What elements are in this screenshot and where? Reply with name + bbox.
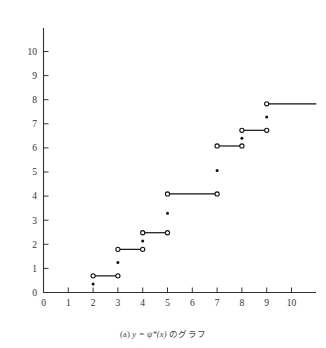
open-endpoint-marker [116,247,120,251]
x-tick-label-9: 9 [264,298,269,308]
jump-midpoint-dot [116,261,119,264]
y-tick-label-7: 7 [32,119,37,129]
x-tick-label-10: 10 [287,298,297,308]
y-tick-label-9: 9 [32,71,37,81]
x-tick-label-4: 4 [140,298,145,308]
chart-background [0,0,326,348]
open-endpoint-marker [215,192,219,196]
x-tick-label-1: 1 [66,298,71,308]
open-endpoint-marker [265,128,269,132]
jump-midpoint-dot [166,212,169,215]
y-tick-label-6: 6 [32,143,37,153]
y-tick-label-1: 1 [32,264,37,274]
y-tick-label-10: 10 [28,47,38,57]
jump-midpoint-dot [265,116,268,119]
jump-midpoint-dot [216,169,219,172]
x-tick-label-8: 8 [240,298,245,308]
caption-prefix: (a) [120,329,130,339]
x-tick-label-0: 0 [41,298,46,308]
jump-midpoint-dot [141,239,144,242]
y-tick-label-2: 2 [32,240,37,250]
figure-caption: (a) y = ψ*(x) のグラフ [0,327,326,339]
open-endpoint-marker [91,274,95,278]
y-tick-label-5: 5 [32,167,37,177]
x-tick-label-2: 2 [91,298,96,308]
x-tick-label-5: 5 [165,298,170,308]
y-tick-label-8: 8 [32,95,37,105]
open-endpoint-marker [165,231,169,235]
figure-container: 0 1 2 3 4 5 6 7 8 9 10 0 [0,0,326,348]
jump-midpoint-dot [240,137,243,140]
caption-suffix: のグラフ [169,329,206,339]
y-tick-label-3: 3 [32,216,37,226]
x-tick-label-3: 3 [116,298,121,308]
open-endpoint-marker [240,144,244,148]
jump-midpoint-dot [92,283,95,286]
x-tick-label-7: 7 [215,298,220,308]
open-endpoint-marker [116,274,120,278]
x-tick-label-6: 6 [190,298,195,308]
y-tick-label-0: 0 [32,288,37,298]
open-endpoint-marker [240,128,244,132]
open-endpoint-marker [141,231,145,235]
caption-math: y = ψ*(x) [132,329,167,339]
open-endpoint-marker [165,192,169,196]
step-function-chart: 0 1 2 3 4 5 6 7 8 9 10 0 [0,0,326,348]
y-tick-label-4: 4 [32,191,37,201]
open-endpoint-marker [141,247,145,251]
open-endpoint-marker [215,144,219,148]
open-endpoint-marker [265,102,269,106]
